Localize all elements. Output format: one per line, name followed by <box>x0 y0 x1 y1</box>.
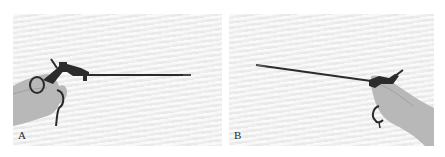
photo-panel-b: B <box>229 14 434 146</box>
panel-label-a: A <box>18 130 26 141</box>
panel-label-b: B <box>234 130 241 141</box>
photo-panel-a: A <box>13 14 222 146</box>
instrument-hand-photo-b <box>229 14 434 146</box>
instrument-hand-photo-a <box>13 14 222 146</box>
